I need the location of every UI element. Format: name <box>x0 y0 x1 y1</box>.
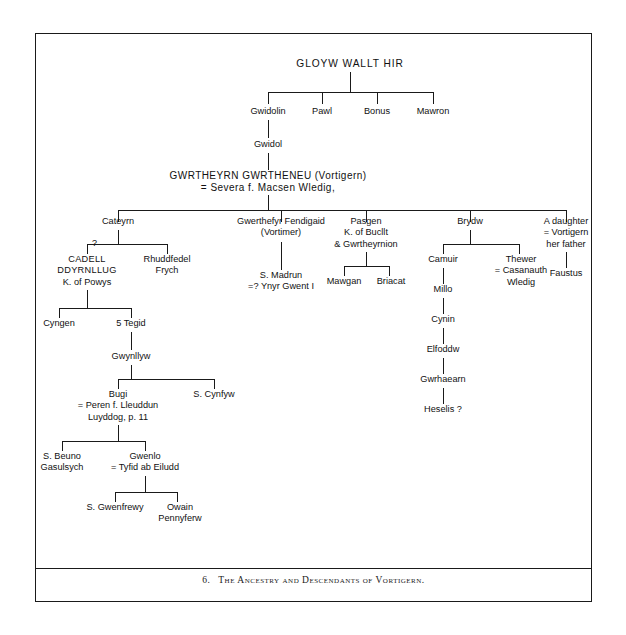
connector-cynfyw-drop <box>214 379 215 389</box>
connector-mawron-drop <box>433 92 434 104</box>
connector-cynin-elfoddw <box>443 328 444 344</box>
node-cynin: Cynin <box>431 314 455 325</box>
connector-brydw-children-bar <box>443 244 519 245</box>
node-millo: Millo <box>434 284 453 295</box>
connector-gwrhaearn-heselis <box>443 388 444 404</box>
node-rhuddfedel-frych: Rhuddfedel Frych <box>144 254 191 277</box>
connector-gwynllyw-down <box>131 365 132 379</box>
connector-pasgen-down <box>366 252 367 266</box>
node-s-gwenfrewy: S. Gwenfrewy <box>86 502 143 513</box>
connector-mawgan-drop <box>344 266 345 276</box>
node-cateyrn: Cateyrn <box>102 216 134 227</box>
node-pawl: Pawl <box>312 106 332 117</box>
node-s-madrun: S. Madrun =? Ynyr Gwent I <box>248 270 314 293</box>
connector-gwenfrewy-drop <box>115 492 116 502</box>
node-gwynllyw: Gwynllyw <box>112 351 151 362</box>
node-s-beuno-gasulsych: S. Beuno Gasulsych <box>41 451 84 474</box>
node-briacat: Briacat <box>377 276 406 287</box>
connector-gwidolin-gwidol <box>268 120 269 138</box>
node-a-daughter: A daughter = Vortigern her father <box>544 216 589 250</box>
node-pasgen: Pasgen K. of Bucllt & Gwrtheyrnion <box>334 216 397 250</box>
node-gwenlo: Gwenlo = Tyfid ab Eiludd <box>111 451 179 474</box>
connector-gloyw-down <box>350 72 351 92</box>
connector-gen4-bar <box>118 210 566 211</box>
connector-pawl-drop <box>322 92 323 104</box>
connector-cadell-down <box>87 290 88 308</box>
connector-cyngen-drop <box>59 308 60 318</box>
figure-number: 6. <box>202 575 210 585</box>
node-thewer: Thewer = Casanauth Wledig <box>495 254 547 288</box>
node-gwrhaearn: Gwrhaearn <box>420 374 465 385</box>
node-cyngen: Cyngen <box>43 318 75 329</box>
node-gwerthefyr-fendigaid: Gwerthefyr Fendigaid (Vortimer) <box>237 216 325 239</box>
node-faustus: Faustus <box>550 268 583 279</box>
connector-gwenlo-children-bar <box>115 492 177 493</box>
connector-cateyrn-children-bar <box>87 244 167 245</box>
connector-gwenlo-down <box>145 476 146 492</box>
node-mawgan: Mawgan <box>327 276 362 287</box>
genealogy-chart: GLOYW WALLT HIR Gwidolin Pawl Bonus Mawr… <box>0 0 626 568</box>
connector-brydw-down <box>470 230 471 244</box>
connector-cadell-drop <box>87 244 88 254</box>
connector-beuno-drop <box>62 441 63 451</box>
node-bonus: Bonus <box>364 106 390 117</box>
node-gwidolin: Gwidolin <box>250 106 285 117</box>
connector-gen2-bar <box>268 92 433 93</box>
node-brydw: Brydw <box>457 216 483 227</box>
node-gwrtheyrn-gwrtheneu: GWRTHEYRN GWRTHENEU (Vortigern) = Severa… <box>170 170 367 194</box>
node-camuir: Camuir <box>428 254 458 265</box>
connector-tegid-drop <box>131 308 132 318</box>
node-gwidol: Gwidol <box>254 139 282 150</box>
connector-gwenlo-drop <box>145 441 146 451</box>
connector-bugi-drop <box>118 379 119 389</box>
connector-millo-cynin <box>443 298 444 314</box>
node-owain-pennyferw: Owain Pennyferw <box>158 502 201 525</box>
node-gloyw-wallt-hir: GLOYW WALLT HIR <box>296 58 403 69</box>
plate-page: GLOYW WALLT HIR Gwidolin Pawl Bonus Mawr… <box>0 0 626 635</box>
node-s-cynfyw: S. Cynfyw <box>193 389 234 400</box>
connector-camuir-drop <box>443 244 444 254</box>
node-5-tegid: 5 Tegid <box>116 318 145 329</box>
connector-thewer-drop <box>519 244 520 254</box>
connector-gwrtheyrn-down <box>268 195 269 210</box>
connector-rhuddfedel-drop <box>167 244 168 254</box>
connector-bugi-children-bar <box>62 441 145 442</box>
connector-gwynllyw-children-bar <box>118 379 214 380</box>
figure-caption: 6. The Ancestry and Descendants of Vorti… <box>35 575 592 585</box>
figure-caption-text: The Ancestry and Descendants of Vortiger… <box>218 575 424 585</box>
node-mawron: Mawron <box>417 106 450 117</box>
connector-elfoddw-gwrhaearn <box>443 358 444 374</box>
uncertainty-marker-cadell: ? <box>92 239 97 248</box>
connector-daughter-faustus <box>566 252 567 268</box>
connector-gwerthefyr-madrun <box>281 242 282 270</box>
connector-briacat-drop <box>389 266 390 276</box>
connector-cadell-children-bar <box>59 308 131 309</box>
connector-gwidolin-drop <box>268 92 269 104</box>
connector-pasgen-children-bar <box>344 266 389 267</box>
caption-divider-rule <box>35 568 592 569</box>
connector-cateyrn-down <box>118 230 119 244</box>
connector-tegid-gwynllyw <box>131 332 132 350</box>
node-bugi: Bugi = Peren f. Lleuddun Luyddog, p. 11 <box>78 389 158 423</box>
connector-owain-drop <box>177 492 178 502</box>
node-elfoddw: Elfoddw <box>427 344 460 355</box>
connector-bugi-down <box>118 425 119 441</box>
connector-gwidol-gwrtheyrn <box>268 153 269 170</box>
connector-bonus-drop <box>377 92 378 104</box>
connector-camuir-millo <box>443 268 444 284</box>
node-cadell-ddyrnllug: CADELL DDYRNLLUG K. of Powys <box>57 254 116 288</box>
node-heselis: Heselis ? <box>424 404 462 415</box>
